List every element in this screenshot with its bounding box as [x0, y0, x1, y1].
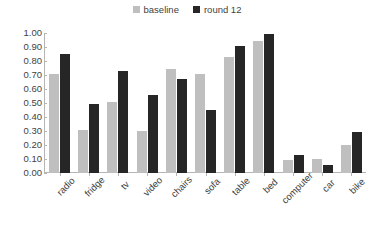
bar-group [162, 33, 191, 173]
bar-fridge-round-12 [89, 104, 99, 173]
plot-area [44, 33, 366, 173]
bar-group [308, 33, 337, 173]
bar-sofa-round-12 [206, 110, 216, 173]
legend-entry-round-12: round 12 [193, 5, 242, 15]
bar-chairs-baseline [166, 69, 176, 173]
bar-video-round-12 [148, 95, 158, 173]
x-axis-label-cell: bed [249, 175, 278, 230]
x-axis-label-tv: tv [119, 179, 131, 191]
x-axis-label-cell: chairs [162, 175, 191, 230]
y-axis-tick-label: 0.50 [0, 98, 42, 108]
bar-group [337, 33, 366, 173]
x-axis-label-cell: bike [337, 175, 366, 230]
bar-group [45, 33, 74, 173]
y-axis-tick-label: 1.00 [0, 28, 42, 38]
bar-group [279, 33, 308, 173]
x-axis-label-cell: radio [45, 175, 74, 230]
y-axis-tick-label: 0.30 [0, 126, 42, 136]
y-axis-tick-label: 0.10 [0, 154, 42, 164]
x-axis-label-cell: tv [103, 175, 132, 230]
bar-bed-baseline [253, 41, 263, 173]
bar-computer-round-12 [294, 155, 304, 173]
y-axis-tick-label: 0.20 [0, 140, 42, 150]
bar-fridge-baseline [78, 130, 88, 173]
x-axis-labels: radiofridgetvvideochairssofatablebedcomp… [45, 175, 366, 230]
y-axis-tick-label: 0.40 [0, 112, 42, 122]
x-axis-label-cell: table [220, 175, 249, 230]
x-axis-label-cell: car [308, 175, 337, 230]
bar-chart: baseline round 12 1.000.900.800.700.600.… [0, 0, 374, 232]
bar-radio-baseline [49, 74, 59, 173]
bar-group [74, 33, 103, 173]
x-axis-label-cell: computer [279, 175, 308, 230]
bar-groups [45, 33, 366, 173]
bar-bike-baseline [341, 145, 351, 173]
chart-legend: baseline round 12 [0, 5, 374, 15]
bar-group [103, 33, 132, 173]
x-axis-label-cell: sofa [191, 175, 220, 230]
bar-sofa-baseline [195, 74, 205, 173]
x-axis-label-radio: radio [55, 176, 77, 198]
bar-car-round-12 [323, 165, 333, 173]
y-axis-tick-label: 0.60 [0, 84, 42, 94]
x-axis-label-cell: fridge [74, 175, 103, 230]
y-axis-tick-label: 0.90 [0, 42, 42, 52]
x-axis-label-table: table [230, 176, 251, 197]
bar-group [191, 33, 220, 173]
legend-entry-baseline: baseline [133, 5, 179, 15]
legend-swatch-baseline [133, 6, 140, 13]
bar-radio-round-12 [60, 54, 70, 173]
bar-video-baseline [137, 131, 147, 173]
bar-table-round-12 [235, 46, 245, 173]
bar-group [220, 33, 249, 173]
bar-chairs-round-12 [177, 79, 187, 173]
legend-label-round-12: round 12 [204, 5, 242, 15]
y-axis-tick-label: 0.70 [0, 70, 42, 80]
y-axis-tick-label: 0.00 [0, 168, 42, 178]
x-axis-label-cell: video [133, 175, 162, 230]
bar-car-baseline [312, 159, 322, 173]
x-axis-label-sofa: sofa [202, 176, 221, 195]
x-axis-label-bike: bike [348, 177, 367, 196]
legend-swatch-round-12 [193, 6, 200, 13]
y-axis-tick-mark [44, 173, 47, 174]
x-axis-label-bed: bed [261, 177, 279, 195]
y-axis-tick-label: 0.80 [0, 56, 42, 66]
x-axis-label-car: car [321, 178, 337, 194]
bar-tv-baseline [107, 102, 117, 173]
bar-table-baseline [224, 57, 234, 173]
bar-group [249, 33, 278, 173]
bar-computer-baseline [283, 160, 293, 173]
bar-bed-round-12 [264, 34, 274, 173]
legend-label-baseline: baseline [144, 5, 179, 15]
bar-tv-round-12 [118, 71, 128, 173]
bar-group [133, 33, 162, 173]
bar-bike-round-12 [352, 132, 362, 173]
